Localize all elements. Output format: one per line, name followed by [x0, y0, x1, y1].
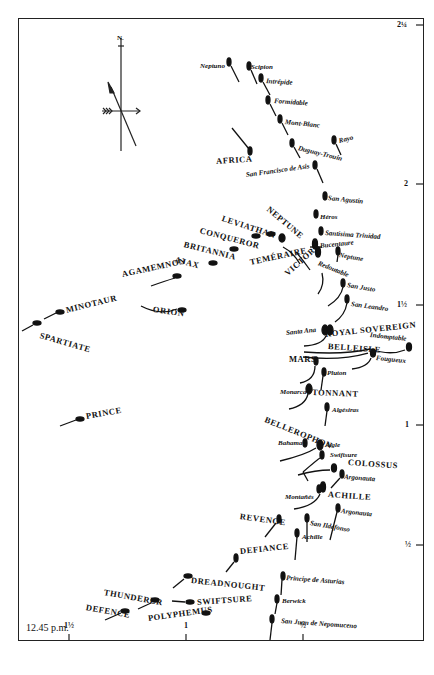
enemy-ship-label: Achille — [302, 534, 323, 541]
enemy-ship-label: Scipion — [251, 64, 273, 71]
bottom-axis-ticks — [69, 634, 303, 641]
enemy-ship-label: Bahama — [278, 440, 303, 447]
right-axis-tick-label: 1 — [405, 420, 409, 429]
enemy-ship-label: Aigle — [325, 442, 340, 449]
bottom-axis-tick-label: 1 — [184, 621, 188, 630]
compass-icon — [102, 38, 140, 151]
enemy-ship-label: Swiftsure — [330, 452, 357, 459]
right-axis-tick-label: ½ — [405, 540, 411, 549]
time-label: 12.45 p.m. — [26, 622, 69, 633]
right-axis-tick-label: 1½ — [397, 300, 407, 309]
enemy-ship-label: Algésiras — [332, 407, 359, 414]
right-axis-ticks — [416, 25, 424, 545]
right-axis-tick-label: 2¼ — [397, 20, 407, 29]
compass-north-label: N. — [117, 34, 124, 42]
enemy-ship-label: Berwick — [282, 598, 306, 605]
enemy-ship-label: Héros — [320, 214, 338, 221]
enemy-ship-label: Montañés — [285, 494, 314, 501]
right-axis-tick-label: 2 — [404, 179, 408, 188]
enemy-ship-label: Neptuno — [200, 63, 225, 70]
british-ship-label: TONNANT — [312, 388, 359, 398]
enemy-ship-label: Monarca — [280, 389, 306, 396]
enemy-ship-label: Pluton — [327, 370, 346, 377]
british-ship-label: MARS — [289, 355, 316, 364]
battle-map: 2¼ 2 1½ 1 ½ 1½ 1 ½ N. 12.45 p.m. NEPTUNE… — [0, 0, 434, 675]
